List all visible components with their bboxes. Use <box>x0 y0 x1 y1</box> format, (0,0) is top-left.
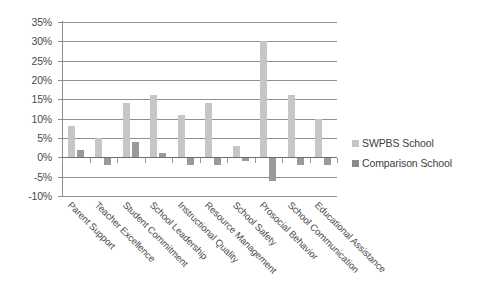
y-axis-tick-label: 0% <box>37 152 52 162</box>
bar-comparison-school <box>297 157 304 165</box>
y-axis-tick-label: 5% <box>37 133 52 143</box>
y-axis-tick-label: 15% <box>32 94 52 104</box>
x-axis-tick-mark <box>145 158 146 163</box>
bar-chart: 35%30%25%20%15%10%5%0%-5%-10% Parent Sup… <box>0 0 483 307</box>
bar-swpbs-school <box>288 95 295 157</box>
bar-comparison-school <box>77 150 84 158</box>
x-axis-tick-mark <box>117 158 118 163</box>
legend-color-swatch <box>352 140 359 147</box>
x-axis-tick-mark <box>62 158 63 163</box>
x-axis-tick-mark <box>172 158 173 163</box>
y-axis-tick-label: -10% <box>28 191 52 201</box>
legend-item-label: SWPBS School <box>362 138 434 149</box>
bar-swpbs-school <box>315 119 322 158</box>
legend-item: SWPBS School <box>352 138 480 149</box>
plot-area <box>62 22 337 196</box>
bar-comparison-school <box>269 157 276 180</box>
x-axis-tick-mark <box>337 158 338 163</box>
legend-item-label: Comparison School <box>362 158 452 169</box>
bar-swpbs-school <box>68 126 75 157</box>
y-axis-tick-label: 25% <box>32 56 52 66</box>
x-axis-tick-mark <box>310 158 311 163</box>
bar-swpbs-school <box>95 138 102 157</box>
y-axis-tick-label: 20% <box>32 75 52 85</box>
y-axis-tick-label: 10% <box>32 114 52 124</box>
bar-swpbs-school <box>205 103 212 157</box>
bar-series-group <box>62 22 337 196</box>
y-axis-tick-label: 30% <box>32 36 52 46</box>
bar-comparison-school <box>132 142 139 157</box>
bar-swpbs-school <box>260 41 267 157</box>
bar-swpbs-school <box>233 146 240 158</box>
x-axis-tick-mark <box>200 158 201 163</box>
x-axis-tick-mark <box>255 158 256 163</box>
x-axis-tick-mark <box>90 158 91 163</box>
y-axis-tick-labels: 35%30%25%20%15%10%5%0%-5%-10% <box>0 0 62 307</box>
bar-comparison-school <box>187 157 194 165</box>
bar-comparison-school <box>324 157 331 165</box>
legend-item: Comparison School <box>352 158 480 169</box>
y-axis-tick-label: 35% <box>32 17 52 27</box>
y-axis-tick-label: -5% <box>34 172 52 182</box>
x-axis-tick-mark <box>282 158 283 163</box>
x-axis-tick-labels: Parent SupportTeacher ExcellenceStudent … <box>62 196 482 307</box>
chart-legend: SWPBS SchoolComparison School <box>352 138 480 178</box>
bar-swpbs-school <box>178 115 185 158</box>
bar-swpbs-school <box>150 95 157 157</box>
x-axis-tick-mark <box>227 158 228 163</box>
bar-swpbs-school <box>123 103 130 157</box>
bar-comparison-school <box>214 157 221 165</box>
bar-comparison-school <box>104 157 111 165</box>
legend-color-swatch <box>352 160 359 167</box>
